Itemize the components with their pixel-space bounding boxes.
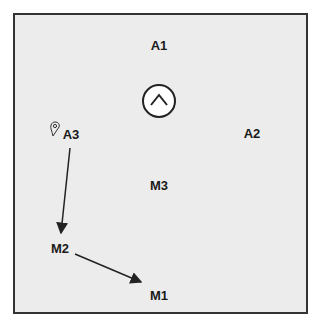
label-a3: A3 — [63, 127, 80, 142]
label-m3: M3 — [150, 178, 168, 193]
label-a2: A2 — [244, 126, 261, 141]
label-m2: M2 — [51, 241, 69, 256]
label-a1: A1 — [151, 38, 168, 53]
label-m1: M1 — [150, 288, 168, 303]
chevron-up-circle-icon[interactable] — [142, 84, 176, 118]
location-pin-icon — [49, 121, 61, 137]
diagram-frame — [13, 13, 308, 314]
